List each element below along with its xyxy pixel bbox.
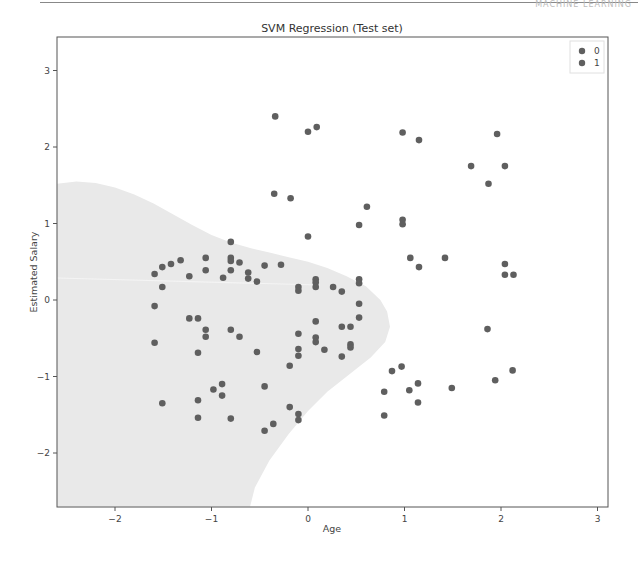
data-point-class-1 — [415, 399, 422, 406]
x-tick-label: 3 — [595, 514, 601, 524]
data-point-class-0 — [177, 257, 184, 264]
data-point-class-0 — [339, 288, 346, 295]
data-point-class-1 — [272, 113, 279, 120]
data-point-class-0 — [295, 346, 302, 353]
data-point-class-1 — [381, 412, 388, 419]
data-point-class-1 — [494, 131, 501, 138]
data-point-class-0 — [186, 315, 193, 322]
data-point-class-0 — [295, 353, 302, 360]
data-point-class-0 — [195, 397, 202, 404]
data-point-class-1 — [399, 221, 406, 228]
data-point-class-0 — [312, 318, 319, 325]
data-point-class-0 — [202, 333, 209, 340]
data-point-class-1 — [271, 190, 278, 197]
data-point-class-0 — [261, 262, 268, 269]
data-point-class-0 — [151, 303, 158, 310]
data-point-class-0 — [219, 392, 226, 399]
data-point-class-0 — [228, 239, 235, 246]
data-point-class-0 — [245, 269, 252, 276]
data-point-class-1 — [389, 368, 396, 375]
data-point-class-0 — [202, 327, 209, 334]
data-point-class-1 — [407, 255, 414, 262]
data-point-class-1 — [305, 128, 312, 135]
legend-marker-0 — [579, 48, 585, 54]
data-point-class-1 — [364, 203, 371, 210]
data-point-class-0 — [339, 324, 346, 331]
data-point-class-0 — [261, 428, 268, 435]
data-point-class-1 — [415, 380, 422, 387]
data-point-class-1 — [406, 387, 413, 394]
plot-area — [57, 37, 608, 507]
svm-scatter-chart: SVM Regression (Test set) −2−10123 −2−10… — [0, 0, 638, 561]
data-point-class-1 — [398, 363, 405, 370]
data-point-class-1 — [502, 163, 509, 170]
data-point-class-0 — [295, 330, 302, 337]
data-point-class-0 — [254, 278, 261, 285]
data-point-class-0 — [228, 327, 235, 334]
data-point-class-1 — [416, 264, 423, 271]
data-point-class-0 — [356, 280, 363, 287]
data-point-class-0 — [254, 349, 261, 356]
data-point-class-0 — [186, 273, 193, 280]
legend-label-0: 0 — [594, 46, 600, 56]
x-tick-label: −2 — [108, 514, 121, 524]
data-point-class-0 — [195, 350, 202, 357]
data-point-class-0 — [356, 314, 363, 321]
data-point-class-1 — [305, 233, 312, 240]
data-point-class-1 — [502, 272, 509, 279]
data-point-class-0 — [295, 411, 302, 418]
data-point-class-0 — [195, 315, 202, 322]
data-point-class-0 — [286, 404, 293, 411]
legend-marker-1 — [579, 60, 585, 66]
data-point-class-0 — [312, 339, 319, 346]
data-point-class-0 — [228, 258, 235, 265]
data-point-class-1 — [468, 163, 475, 170]
data-point-class-0 — [278, 262, 285, 269]
chart-title: SVM Regression (Test set) — [261, 22, 403, 35]
y-tick-label: −1 — [37, 372, 50, 382]
data-point-class-1 — [381, 389, 388, 396]
data-point-class-0 — [202, 267, 209, 274]
data-point-class-1 — [502, 261, 509, 268]
data-point-class-0 — [168, 261, 175, 268]
y-tick-label: 0 — [44, 295, 50, 305]
data-point-class-1 — [484, 326, 491, 333]
x-tick-label: 1 — [402, 514, 408, 524]
data-point-class-0 — [321, 346, 328, 353]
data-point-class-0 — [210, 386, 217, 393]
data-point-class-0 — [236, 333, 243, 340]
data-point-class-0 — [151, 340, 158, 347]
data-point-class-1 — [485, 180, 492, 187]
data-point-class-0 — [219, 381, 226, 388]
data-point-class-0 — [312, 284, 319, 291]
y-axis-label: Estimated Salary — [28, 231, 39, 312]
y-axis-ticks: −2−10123 — [37, 66, 57, 459]
data-point-class-0 — [159, 400, 166, 407]
data-point-class-1 — [442, 255, 449, 262]
legend: 0 1 — [570, 41, 604, 73]
data-point-class-0 — [159, 284, 166, 291]
data-point-class-1 — [509, 367, 516, 374]
data-point-class-0 — [245, 275, 252, 282]
data-point-class-0 — [339, 353, 346, 360]
data-point-class-0 — [159, 264, 166, 271]
data-point-class-0 — [261, 383, 268, 390]
y-tick-label: 3 — [44, 66, 50, 76]
data-point-class-0 — [356, 301, 363, 308]
data-point-class-0 — [220, 275, 227, 282]
y-tick-label: 2 — [44, 142, 50, 152]
data-point-class-0 — [286, 363, 293, 370]
data-point-class-0 — [295, 417, 302, 424]
data-point-class-0 — [202, 255, 209, 262]
y-tick-label: −2 — [37, 448, 50, 458]
data-point-class-1 — [416, 137, 423, 144]
x-axis-label: Age — [323, 523, 342, 534]
data-point-class-0 — [228, 415, 235, 422]
x-tick-label: −1 — [205, 514, 218, 524]
y-tick-label: 1 — [44, 219, 50, 229]
data-point-class-0 — [236, 259, 243, 266]
data-point-class-1 — [287, 195, 294, 202]
data-point-class-1 — [510, 272, 517, 279]
data-point-class-1 — [313, 124, 320, 131]
data-point-class-1 — [492, 377, 499, 384]
